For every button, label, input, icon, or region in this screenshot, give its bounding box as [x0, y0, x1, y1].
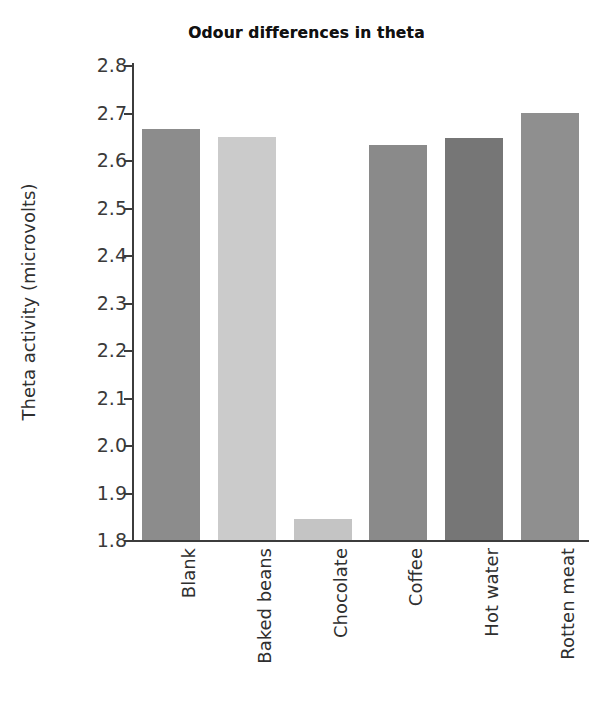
y-axis-tick-label: 2.1 — [97, 387, 127, 409]
y-axis-tick-label: 2.8 — [97, 54, 127, 76]
bar — [218, 137, 276, 540]
x-axis-tick-label: Baked beans — [254, 548, 275, 664]
bar — [142, 129, 200, 540]
y-axis-tick-label: 2.6 — [97, 149, 127, 171]
y-axis-tick-label: 2.3 — [97, 292, 127, 314]
x-axis-line — [132, 540, 589, 542]
bar — [445, 138, 503, 540]
bar — [521, 113, 579, 541]
y-axis-tick-label: 2.2 — [97, 339, 127, 361]
chart-title: Odour differences in theta — [0, 24, 613, 42]
x-axis-tick-label: Chocolate — [330, 548, 351, 638]
chart-figure: Odour differences in theta Theta activit… — [0, 0, 613, 704]
x-axis-tick-label: Coffee — [405, 548, 426, 606]
bar — [294, 519, 352, 540]
y-axis-title: Theta activity (microvolts) — [18, 184, 39, 421]
bar — [369, 145, 427, 540]
y-axis-tick-label: 1.9 — [97, 482, 127, 504]
y-axis-tick-label: 2.4 — [97, 244, 127, 266]
plot-area: 2.82.72.62.52.42.32.22.12.01.91.8 — [133, 65, 588, 540]
y-axis-tick-label: 2.0 — [97, 434, 127, 456]
y-axis-tick-label: 2.5 — [97, 197, 127, 219]
y-axis-tick-label: 2.7 — [97, 102, 127, 124]
x-axis-tick-label: Rotten meat — [557, 548, 578, 660]
y-axis-tick-label: 1.8 — [97, 529, 127, 551]
x-axis-tick-label: Hot water — [481, 548, 502, 637]
x-axis-tick-label: Blank — [178, 548, 199, 598]
